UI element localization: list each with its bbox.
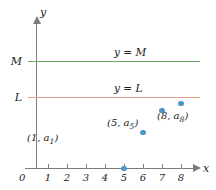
y-axis-label: y <box>40 6 46 19</box>
x-axis-tick-label: 3 <box>79 172 93 183</box>
y-tick-label-l: L <box>6 91 22 104</box>
x-axis-tick <box>162 164 163 168</box>
x-axis-tick-label: 2 <box>60 172 74 183</box>
annotation-subscript: 1 <box>50 137 55 146</box>
point-annotation-8: (8, a8) <box>157 110 188 124</box>
annotation-subscript: 8 <box>180 115 185 124</box>
x-axis-tick-label: 5 <box>117 172 131 183</box>
horizontal-line-l <box>28 97 200 99</box>
x-axis-tick <box>67 164 68 168</box>
x-axis-tick-label: 1 <box>41 172 55 183</box>
data-point <box>178 101 183 106</box>
x-axis-tick <box>86 164 87 168</box>
y-tick-label-m: M <box>6 55 22 68</box>
x-axis-tick <box>143 164 144 168</box>
line-caption-l: y = L <box>114 82 142 94</box>
x-axis-arrow-icon <box>193 164 201 172</box>
data-point <box>121 166 126 171</box>
x-axis-tick-label: 6 <box>136 172 150 183</box>
y-axis-line <box>36 22 37 169</box>
sequence-limit-figure: y x M L y = M y = L 0 12345678 (1, a1) (… <box>0 0 216 190</box>
line-caption-m: y = M <box>114 46 146 58</box>
point-annotation-1: (1, a1) <box>27 132 58 146</box>
x-axis-tick <box>181 164 182 168</box>
data-point <box>140 130 145 135</box>
annotation-subscript: 5 <box>130 122 135 131</box>
x-axis-line <box>25 168 198 169</box>
x-axis-tick-label: 8 <box>174 172 188 183</box>
x-axis-tick <box>105 164 106 168</box>
x-axis-tick <box>48 164 49 168</box>
horizontal-line-m <box>28 61 200 63</box>
x-axis-tick-label: 4 <box>98 172 112 183</box>
x-axis-label: x <box>203 162 209 175</box>
origin-label: 0 <box>19 172 25 183</box>
point-annotation-5: (5, a5) <box>107 117 138 131</box>
x-axis-tick-label: 7 <box>155 172 169 183</box>
